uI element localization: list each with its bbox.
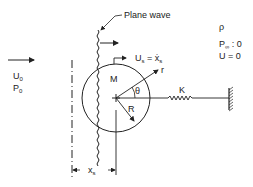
- displacement-label: xs: [88, 166, 96, 178]
- sphere-velocity-label: Us = ẋs: [135, 54, 162, 66]
- far-velocity-label: U = 0: [219, 52, 241, 61]
- plane-wave-label: Plane wave: [124, 11, 171, 20]
- density-label: ρ: [219, 23, 224, 32]
- sphere-velocity-arrow: [114, 58, 126, 64]
- diagram-canvas: [0, 0, 253, 187]
- theta-label: θ: [135, 87, 140, 96]
- radial-coordinate-label: r: [161, 66, 164, 75]
- mass-label: M: [110, 75, 118, 84]
- incident-pressure-label: P0: [13, 84, 22, 96]
- plane-wave-leader: [101, 15, 122, 30]
- spring: [168, 96, 229, 100]
- spring-label: K: [179, 86, 185, 95]
- plane-wave-front: [97, 30, 99, 166]
- radius-label: R: [128, 105, 135, 114]
- fixed-wall: [229, 87, 233, 111]
